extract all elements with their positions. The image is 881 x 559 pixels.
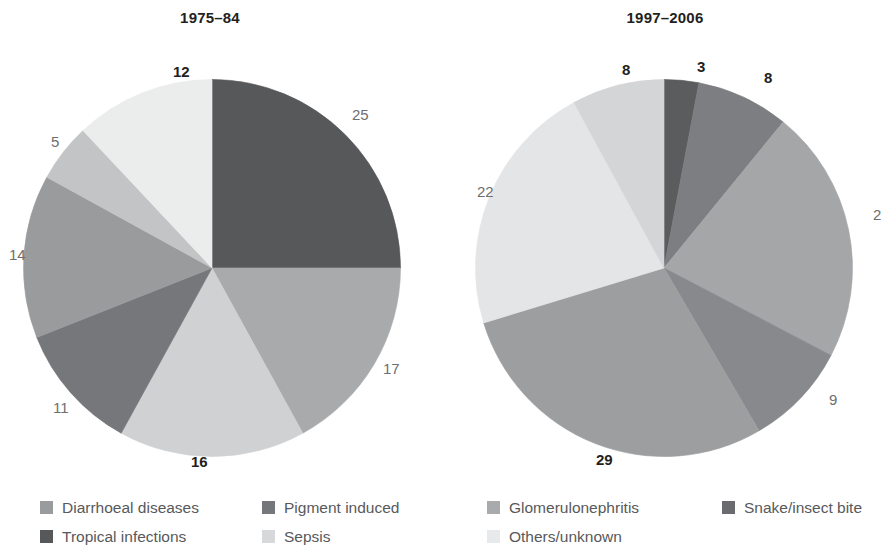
legend-item[interactable]: Others/unknown	[487, 529, 622, 545]
pie-value-label: 12	[173, 64, 190, 79]
pie-value-label: 3	[697, 59, 705, 74]
pie-value-label: 2	[873, 207, 881, 222]
legend-item[interactable]: Tropical infections	[40, 529, 186, 545]
legend: Diarrhoeal diseasesPigment inducedGlomer…	[0, 498, 880, 559]
pie-value-label: 16	[191, 454, 208, 469]
legend-swatch-icon	[40, 530, 53, 543]
legend-item-label: Glomerulonephritis	[509, 500, 639, 516]
legend-item-label: Tropical infections	[62, 529, 186, 545]
pie-svg-1975-84	[22, 78, 402, 458]
pie-value-label: 25	[352, 107, 369, 122]
pie-slice	[212, 80, 400, 268]
pie-value-label: 8	[622, 62, 630, 77]
legend-item-label: Others/unknown	[509, 529, 622, 545]
legend-swatch-icon	[262, 501, 275, 514]
pie-value-label: 11	[53, 400, 69, 415]
pie-value-label: 5	[51, 134, 59, 149]
pie-value-label: 8	[764, 70, 772, 85]
pie-value-label: 9	[829, 392, 837, 407]
legend-item-label: Diarrhoeal diseases	[62, 500, 199, 516]
legend-item-label: Pigment induced	[284, 500, 399, 516]
legend-item-label: Snake/insect bite	[744, 500, 862, 516]
panel-title-left: 1975–84	[0, 9, 420, 26]
legend-item-label: Sepsis	[284, 529, 331, 545]
legend-swatch-icon	[262, 530, 275, 543]
legend-item[interactable]: Sepsis	[262, 529, 331, 545]
legend-item[interactable]: Snake/insect bite	[722, 500, 862, 516]
legend-swatch-icon	[722, 501, 735, 514]
panel-title-right: 1997–2006	[455, 9, 875, 26]
legend-item[interactable]: Glomerulonephritis	[487, 500, 639, 516]
legend-item[interactable]: Pigment induced	[262, 500, 399, 516]
pie-value-label: 22	[477, 184, 494, 199]
legend-swatch-icon	[487, 501, 500, 514]
legend-swatch-icon	[487, 530, 500, 543]
legend-item[interactable]: Diarrhoeal diseases	[40, 500, 199, 516]
pie-chart-1975-84	[22, 78, 402, 458]
pie-value-label: 14	[9, 247, 26, 262]
legend-swatch-icon	[40, 501, 53, 514]
pie-value-label: 29	[596, 452, 613, 467]
pie-value-label: 17	[383, 361, 400, 376]
pie-svg-1997-2006	[474, 78, 854, 458]
pie-chart-1997-2006	[474, 78, 854, 458]
